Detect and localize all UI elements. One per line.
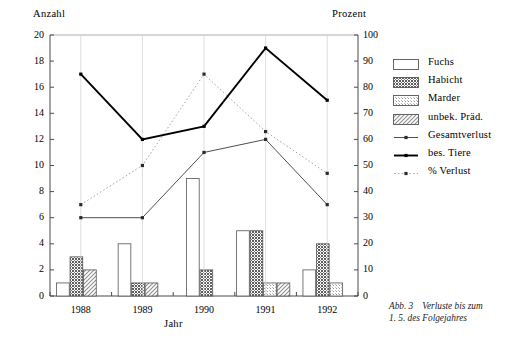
line-thick-solid-icon [393,147,419,158]
legend-label: unbek. Präd. [428,111,483,122]
left-axis-title: Anzahl [33,8,65,19]
legend-row-habicht: Habicht [393,70,521,88]
marker-bestiere-1988 [79,73,82,76]
caption-number: Abb. 3 [389,301,413,311]
right-tick-10: 10 [363,263,393,274]
figure-caption: Abb. 3Verluste bis zum 1. 5. des Folgeja… [389,300,525,324]
marker-gesamtverlust-1990 [202,151,205,154]
left-tick-2: 2 [0,263,44,274]
year-label-1991: 1991 [240,304,292,315]
left-tick-18: 18 [0,55,44,66]
legend-row-%verlust: % Verlust [393,162,521,180]
right-tick-70: 70 [363,107,393,118]
bar-1990-habicht [200,270,213,296]
right-tick-20: 20 [363,237,393,248]
marker-bestiere-1991 [264,46,267,49]
left-tick-8: 8 [0,185,44,196]
right-tick-30: 30 [363,211,393,222]
legend-label: Fuchs [428,56,454,67]
caption-line2: 1. 5. des Folgejahres [389,313,467,323]
swatch-light-dots-icon [393,92,419,103]
bar-1992-fuchs [303,270,316,296]
left-tick-6: 6 [0,211,44,222]
bar-1992-marder [330,283,343,296]
marker-gesamtverlust-1992 [326,203,329,206]
swatch-empty-icon [393,56,419,67]
left-tick-0: 0 [0,290,44,301]
marker-bestiere-1992 [326,99,329,102]
right-tick-0: 0 [363,290,393,301]
marker-verlust-1991 [264,130,267,133]
legend-row-gesamtverlust: Gesamtverlust [393,125,521,143]
left-tick-4: 4 [0,237,44,248]
left-tick-14: 14 [0,107,44,118]
marker-bestiere-1990 [202,125,205,128]
bar-1989-unbekprd [145,283,158,296]
legend-row-marder: Marder [393,89,521,107]
marker-gesamtverlust-1991 [264,138,267,141]
right-axis-ticks [354,35,358,296]
bar-1990-fuchs [187,179,200,296]
bar-1988-unbekprd [84,270,97,296]
legend-row-fuchs: Fuchs [393,52,521,70]
legend-row-bestiere: bes. Tiere [393,143,521,161]
right-tick-100: 100 [363,29,393,40]
legend-label: bes. Tiere [428,147,471,158]
left-tick-16: 16 [0,81,44,92]
marker-verlust-1990 [202,73,205,76]
legend-label: Gesamtverlust [428,129,491,140]
swatch-dark-dense-icon [393,74,419,85]
right-tick-50: 50 [363,159,393,170]
bar-1989-fuchs [118,244,131,296]
marker-bestiere-1989 [141,138,144,141]
marker-gesamtverlust-1989 [141,216,144,219]
legend-row-unbekpräd: unbek. Präd. [393,107,521,125]
right-axis-title: Prozent [332,8,366,19]
marker-verlust-1992 [326,172,329,175]
legend-label: Marder [428,92,460,103]
year-label-1990: 1990 [178,304,230,315]
right-tick-40: 40 [363,185,393,196]
x-axis-title: Jahr [164,318,183,329]
year-label-1988: 1988 [55,304,107,315]
marker-gesamtverlust-1988 [79,216,82,219]
line-thin-marker-icon [393,129,419,140]
right-tick-80: 80 [363,81,393,92]
swatch-diagonal-hatch-icon [393,111,419,122]
right-tick-60: 60 [363,133,393,144]
marker-verlust-1988 [79,203,82,206]
left-tick-20: 20 [0,29,44,40]
bar-series-layer [57,35,343,296]
bar-1991-unbekprd [277,283,290,296]
legend-label: Habicht [428,74,463,85]
line-dotted-marker-icon [393,165,419,176]
legend-label: % Verlust [428,165,471,176]
left-tick-12: 12 [0,133,44,144]
year-label-1992: 1992 [301,304,353,315]
bar-1991-fuchs [237,231,250,296]
right-tick-90: 90 [363,55,393,66]
year-label-1989: 1989 [116,304,168,315]
caption-line1: Verluste bis zum [422,301,482,311]
chart-legend: FuchsHabichtMarderunbek. Präd.Gesamtverl… [393,52,521,180]
left-tick-10: 10 [0,159,44,170]
bar-1988-fuchs [57,283,70,296]
left-axis-ticks [50,35,54,296]
marker-verlust-1989 [141,164,144,167]
bar-1991-habicht [250,231,263,296]
